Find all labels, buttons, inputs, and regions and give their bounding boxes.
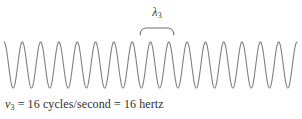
sine-wave-plot [0, 36, 302, 94]
wavelength-symbol-label: λ3 [141, 6, 173, 20]
wave-frequency-figure: λ3 ν3 = 16 cycles/second = 16 hertz [0, 0, 302, 119]
frequency-caption: ν3 = 16 cycles/second = 16 hertz [5, 97, 164, 112]
frequency-caption-text: = 16 cycles/second = 16 hertz [15, 97, 164, 111]
lambda-subscript: 3 [157, 11, 162, 20]
wavelength-brace-icon [139, 26, 175, 36]
